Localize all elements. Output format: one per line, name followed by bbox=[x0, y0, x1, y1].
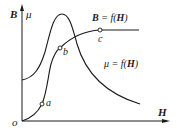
y-axis-label-b: B bbox=[10, 9, 17, 20]
magnetization-diagram: B μ H o B = f(H) μ = f(H) a b c bbox=[0, 0, 177, 132]
y-axis-label-mu: μ bbox=[26, 9, 32, 20]
b-curve bbox=[22, 30, 139, 121]
point-a-label: a bbox=[46, 98, 51, 108]
origin-label: o bbox=[12, 117, 18, 128]
point-a-marker bbox=[40, 102, 44, 106]
x-axis-arrow-icon bbox=[162, 119, 170, 123]
point-b-label: b bbox=[63, 47, 68, 57]
b-curve-label: B = f(H) bbox=[92, 13, 128, 23]
point-c-marker bbox=[98, 28, 102, 32]
point-b-marker bbox=[58, 46, 62, 50]
mu-curve-label: μ = f(H) bbox=[104, 59, 138, 69]
x-axis-label-h: H bbox=[158, 107, 167, 118]
point-c-label: c bbox=[98, 34, 102, 44]
y-axis-arrow-icon bbox=[20, 4, 24, 11]
